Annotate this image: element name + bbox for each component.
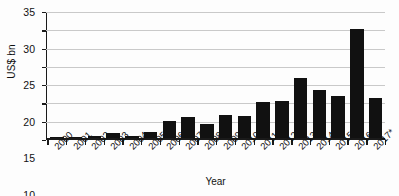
bar xyxy=(294,78,308,138)
y-axis-tick: 10 xyxy=(42,103,46,104)
bar xyxy=(350,29,364,138)
bar-slot xyxy=(141,12,160,138)
bar-chart-figure: US$ bn 05101520253035 200020012002200320… xyxy=(0,0,399,196)
bar-slot xyxy=(160,12,179,138)
bar-slot xyxy=(347,12,366,138)
bar xyxy=(313,90,327,139)
bar-slot xyxy=(85,12,104,138)
plot-area: 05101520253035 xyxy=(46,12,385,140)
y-axis-tick-label: 35 xyxy=(23,6,35,18)
bar-slot xyxy=(47,12,66,138)
bar-slot xyxy=(291,12,310,138)
y-axis-tick-label: 25 xyxy=(23,79,35,91)
bar-slot xyxy=(179,12,198,138)
bar-slot xyxy=(66,12,85,138)
bar-slot xyxy=(272,12,291,138)
y-axis-tick-label: 30 xyxy=(23,43,35,55)
x-axis-tick-labels: 2000200120022003200420052006200720082009… xyxy=(46,144,385,174)
bar xyxy=(331,96,345,138)
x-axis-title: Year xyxy=(46,176,385,187)
bar-slot xyxy=(366,12,385,138)
y-axis-tick: 25 xyxy=(42,49,46,50)
bar-slot xyxy=(329,12,348,138)
y-axis-title: US$ bn xyxy=(6,29,17,95)
y-axis-tick: 30 xyxy=(42,30,46,31)
y-axis-tick: 15 xyxy=(42,85,46,86)
bar-slot xyxy=(235,12,254,138)
bar-slot xyxy=(122,12,141,138)
bar-slot xyxy=(216,12,235,138)
bar-slot xyxy=(310,12,329,138)
y-axis-tick-label: 10 xyxy=(23,189,35,196)
bar-slot xyxy=(254,12,273,138)
y-axis-tick: 35 xyxy=(42,12,46,13)
bar-slot xyxy=(104,12,123,138)
bar-series xyxy=(47,12,385,138)
y-axis-tick: 5 xyxy=(42,122,46,123)
bar-slot xyxy=(197,12,216,138)
y-axis-tick-label: 20 xyxy=(23,116,35,128)
y-axis-tick-label: 15 xyxy=(23,152,35,164)
y-axis-tick: 20 xyxy=(42,67,46,68)
